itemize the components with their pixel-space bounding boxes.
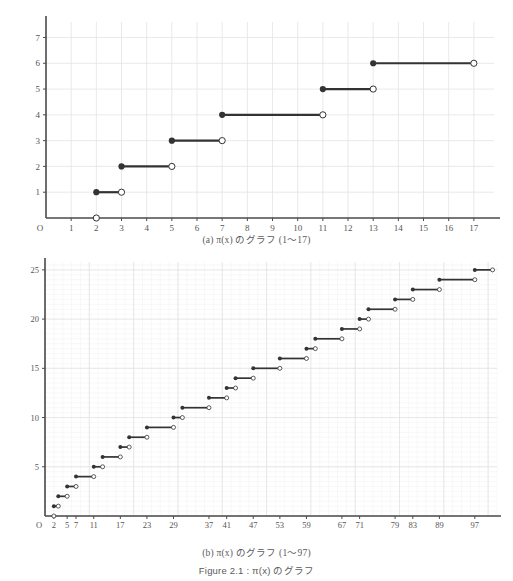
step-endpoint-closed bbox=[219, 112, 225, 118]
step-endpoint-closed bbox=[52, 504, 56, 508]
x-tick-label: 79 bbox=[391, 520, 400, 530]
step-endpoint-closed bbox=[437, 278, 441, 282]
step-endpoint-open bbox=[358, 327, 362, 331]
step-endpoint-closed bbox=[74, 475, 78, 479]
chart-panel-b: 2571117232937414753596771798389975101520… bbox=[0, 248, 513, 553]
step-endpoint-open bbox=[127, 445, 131, 449]
y-tick-label: 25 bbox=[31, 265, 40, 275]
x-tick-label: 67 bbox=[338, 520, 347, 530]
axes bbox=[46, 16, 500, 218]
step-endpoint-open bbox=[101, 465, 105, 469]
step-endpoint-closed bbox=[313, 337, 317, 341]
step-endpoint-closed bbox=[169, 138, 175, 144]
step-endpoint-closed bbox=[411, 288, 415, 292]
y-tick-label: 10 bbox=[31, 413, 40, 423]
y-tick-label: 7 bbox=[36, 33, 41, 43]
step-endpoint-closed bbox=[118, 445, 122, 449]
x-tick-label: 83 bbox=[409, 520, 418, 530]
x-tick-label: 11 bbox=[90, 520, 98, 530]
step-endpoint-open bbox=[251, 376, 255, 380]
origin-label: O bbox=[36, 520, 42, 530]
y-tick-label: 20 bbox=[31, 314, 40, 324]
step-endpoint-closed bbox=[118, 163, 124, 169]
x-tick-label: 97 bbox=[471, 520, 480, 530]
step-endpoint-closed bbox=[225, 386, 229, 390]
step-endpoint-closed bbox=[65, 484, 69, 488]
step-endpoint-open bbox=[313, 347, 317, 351]
step-endpoint-closed bbox=[473, 268, 477, 272]
step-endpoint-closed bbox=[180, 406, 184, 410]
x-tick-label: 59 bbox=[302, 520, 311, 530]
step-endpoint-closed bbox=[340, 327, 344, 331]
step-endpoint-closed bbox=[234, 376, 238, 380]
step-endpoint-closed bbox=[366, 307, 370, 311]
y-tick-label: 4 bbox=[36, 110, 41, 120]
y-tick-label: 3 bbox=[36, 136, 41, 146]
caption-a: (a) π(x) のグラフ (1～17) bbox=[0, 232, 513, 246]
step-endpoint-open bbox=[219, 138, 225, 144]
x-tick-label: 17 bbox=[116, 520, 125, 530]
step-endpoint-closed bbox=[92, 465, 96, 469]
x-tick-label: 7 bbox=[74, 520, 78, 530]
x-tick-label: 29 bbox=[169, 520, 178, 530]
step-endpoint-open bbox=[491, 268, 495, 272]
step-endpoint-open bbox=[471, 60, 477, 66]
step-endpoint-closed bbox=[145, 425, 149, 429]
grid-major bbox=[46, 22, 494, 218]
x-tick-label: 37 bbox=[205, 520, 214, 530]
y-tick-label: 5 bbox=[36, 84, 41, 94]
step-endpoint-open bbox=[393, 307, 397, 311]
step-endpoint-closed bbox=[56, 494, 60, 498]
step-endpoint-open bbox=[207, 406, 211, 410]
step-endpoint-closed bbox=[251, 366, 255, 370]
x-tick-label: 2 bbox=[52, 520, 56, 530]
y-tick-label: 2 bbox=[36, 162, 41, 172]
y-tick-label: 6 bbox=[36, 58, 41, 68]
step-endpoint-open bbox=[225, 396, 229, 400]
step-endpoint-closed bbox=[93, 189, 99, 195]
x-tick-label: 53 bbox=[276, 520, 285, 530]
x-tick-label: 23 bbox=[143, 520, 152, 530]
axes bbox=[45, 258, 501, 516]
step-endpoint-closed bbox=[320, 86, 326, 92]
step-endpoint-closed bbox=[358, 317, 362, 321]
x-axis-ticks: 257111723293741475359677179838997 bbox=[52, 516, 479, 530]
step-endpoint-open bbox=[92, 475, 96, 479]
origin-open-marker bbox=[93, 215, 99, 221]
y-tick-label: 1 bbox=[36, 187, 41, 197]
step-endpoint-open bbox=[340, 337, 344, 341]
step-endpoint-open bbox=[65, 494, 69, 498]
step-endpoint-open bbox=[411, 297, 415, 301]
step-endpoint-open bbox=[320, 112, 326, 118]
caption-b: (b) π(x) のグラフ (1～97) bbox=[0, 545, 513, 559]
x-tick-label: 89 bbox=[435, 520, 444, 530]
step-endpoint-open bbox=[437, 288, 441, 292]
y-tick-label: 5 bbox=[35, 462, 39, 472]
figure-pi-x-graphs: 12345678910111213141516171234567O (a) π(… bbox=[0, 0, 513, 581]
step-endpoint-open bbox=[278, 366, 282, 370]
chart-a-svg: 12345678910111213141516171234567O bbox=[0, 0, 513, 248]
step-endpoint-open bbox=[145, 435, 149, 439]
x-tick-label: 5 bbox=[65, 520, 69, 530]
step-endpoint-closed bbox=[127, 435, 131, 439]
step-endpoint-open bbox=[172, 425, 176, 429]
step-endpoint-open bbox=[370, 86, 376, 92]
x-tick-label: 41 bbox=[222, 520, 231, 530]
figure-title: Figure 2.1 : π(x) のグラフ bbox=[0, 563, 513, 577]
step-series bbox=[93, 60, 477, 195]
step-endpoint-open bbox=[118, 189, 124, 195]
step-endpoint-closed bbox=[101, 455, 105, 459]
step-endpoint-open bbox=[234, 386, 238, 390]
step-endpoint-open bbox=[118, 455, 122, 459]
chart-panel-a: 12345678910111213141516171234567O bbox=[0, 0, 513, 248]
step-endpoint-open bbox=[169, 163, 175, 169]
step-endpoint-closed bbox=[207, 396, 211, 400]
step-endpoint-open bbox=[304, 356, 308, 360]
step-endpoint-open bbox=[366, 317, 370, 321]
x-tick-label: 47 bbox=[249, 520, 258, 530]
y-tick-label: 15 bbox=[31, 363, 40, 373]
step-endpoint-open bbox=[56, 504, 60, 508]
y-axis-ticks: 1234567 bbox=[36, 33, 47, 198]
step-endpoint-open bbox=[473, 278, 477, 282]
step-endpoint-closed bbox=[304, 347, 308, 351]
